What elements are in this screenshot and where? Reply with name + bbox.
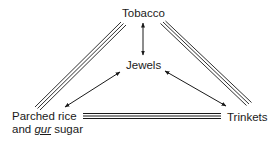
node-jewels: Jewels [126,59,161,72]
node-parched-rice: Parched rice and gur sugar [12,110,83,136]
edge-tobacco-trinkets [161,21,252,106]
arrow-jewels-trinkets [165,71,226,106]
node-tobacco: Tobacco [122,7,165,20]
line2-post: sugar [51,123,83,135]
edge-rice-trinkets [83,114,221,119]
node-trinkets: Trinkets [227,111,267,124]
gur-term: gur [34,123,51,135]
node-parched-rice-line2: and gur sugar [12,123,83,136]
node-parched-rice-line1: Parched rice [12,110,83,123]
line2-pre: and [12,123,34,135]
